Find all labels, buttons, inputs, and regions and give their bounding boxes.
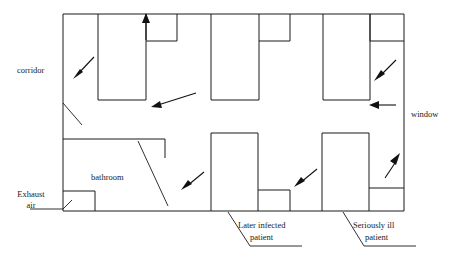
exhaust-air-label-line1: Exhaust (17, 189, 45, 199)
bathroom-room (63, 139, 165, 158)
arrow-corridor-flow-left-upper (151, 93, 196, 108)
corridor-label: corridor (17, 65, 45, 75)
arrow-upper-left-inflow (73, 57, 94, 79)
seriously-ill-room (322, 133, 369, 211)
later-infected-patient-label-line1: Later infected (238, 220, 286, 230)
floor-plan-svg: corridor window bathroom Exhaust air Lat… (0, 0, 458, 260)
arrow-upper-room-exhaust-up (142, 13, 150, 40)
upper-room-1 (98, 14, 146, 100)
arrow-bathroom-inflow (181, 172, 204, 190)
arrow-later-infected-inflow (294, 169, 317, 187)
arrow-window-inflow-right-upper (374, 60, 396, 81)
arrow-seriously-ill-outflow (385, 153, 400, 178)
corridor-leader-line (63, 103, 82, 125)
bathroom-leader-line (138, 141, 168, 206)
arrow-window-inflow-right-middle (369, 101, 396, 109)
upper-alcove-1 (146, 14, 177, 41)
window-label: window (411, 109, 439, 119)
later-infected-patient-label-line2: patient (250, 232, 274, 242)
exhaust-air-label-line2: air (27, 200, 36, 210)
upper-alcove-2 (259, 14, 290, 41)
bathroom-label: bathroom (91, 172, 124, 182)
exhaust-air-box (63, 191, 95, 211)
seriously-ill-patient-label-line1: Seriously ill (353, 220, 395, 230)
seriously-ill-patient-label-line2: patient (365, 232, 389, 242)
floor-plan-diagram: corridor window bathroom Exhaust air Lat… (0, 0, 458, 260)
upper-room-3 (323, 14, 370, 100)
upper-room-2 (211, 14, 259, 100)
later-infected-room (211, 133, 258, 211)
later-infected-bathroom (258, 190, 290, 211)
exhaust-air-leader-line (30, 200, 72, 209)
